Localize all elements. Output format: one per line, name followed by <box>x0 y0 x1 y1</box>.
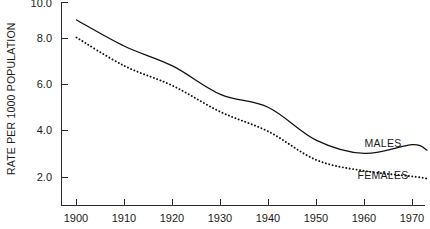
x-tick-marks <box>77 199 413 206</box>
x-tick-label-1920: 1920 <box>160 212 184 224</box>
y-tick-marks <box>62 3 69 178</box>
y-tick-label-6: 6.0 <box>37 78 52 90</box>
y-axis-title: RATE PER 1000 POPULATION <box>5 22 17 175</box>
x-tick-label-1970: 1970 <box>400 212 424 224</box>
y-tick-label-8: 8.0 <box>37 32 52 44</box>
x-tick-label-1900: 1900 <box>64 212 88 224</box>
line-chart: RATE PER 1000 POPULATION 10.0 8.0 6.0 4.… <box>0 0 430 229</box>
x-tick-label-1940: 1940 <box>256 212 280 224</box>
x-tick-label-1950: 1950 <box>304 212 328 224</box>
y-tick-label-10: 10.0 <box>31 0 52 9</box>
series-line-females <box>77 38 427 179</box>
x-tick-label-1960: 1960 <box>352 212 376 224</box>
x-tick-label-1930: 1930 <box>208 212 232 224</box>
x-tick-label-1910: 1910 <box>112 212 136 224</box>
series-line-males <box>77 20 427 153</box>
y-tick-label-2: 2.0 <box>37 171 52 183</box>
y-tick-label-4: 4.0 <box>37 124 52 136</box>
series-label-males: MALES <box>364 137 401 149</box>
series-label-females: FEMALES <box>357 169 408 181</box>
chart-canvas: RATE PER 1000 POPULATION 10.0 8.0 6.0 4.… <box>0 0 430 229</box>
